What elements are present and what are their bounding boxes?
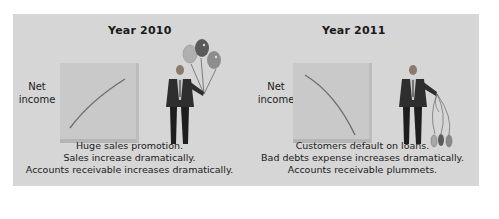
net-income-label: Net income — [17, 80, 57, 106]
falling-curve-icon — [293, 63, 369, 139]
rising-curve-icon — [60, 63, 136, 139]
caption-line: Accounts receivable plummets. — [246, 164, 479, 176]
caption-line: Bad debts expense increases dramatically… — [246, 152, 479, 164]
illustration-panel: Year 2010 Net income — [13, 14, 479, 186]
net-income-increasing-chart — [60, 63, 139, 143]
caption-line: Accounts receivable increases dramatical… — [13, 164, 246, 176]
caption-line: Huge sales promotion. — [13, 140, 246, 152]
year-2011-title: Year 2011 — [322, 24, 386, 37]
ylabel-line2: income — [256, 93, 296, 106]
year-2010-caption: Huge sales promotion. Sales increase dra… — [13, 140, 246, 176]
ylabel-line1: Net — [17, 80, 57, 93]
caption-line: Customers default on loans. — [246, 140, 479, 152]
year-2011-caption: Customers default on loans. Bad debts ex… — [246, 140, 479, 176]
caption-line: Sales increase dramatically. — [13, 152, 246, 164]
net-income-decreasing-chart — [293, 63, 372, 143]
ylabel-line1: Net — [256, 80, 296, 93]
ylabel-line2: income — [17, 93, 57, 106]
year-2011-section: Year 2011 Net income — [246, 14, 479, 186]
year-2010-section: Year 2010 Net income — [13, 14, 246, 186]
net-income-label: Net income — [256, 80, 296, 106]
